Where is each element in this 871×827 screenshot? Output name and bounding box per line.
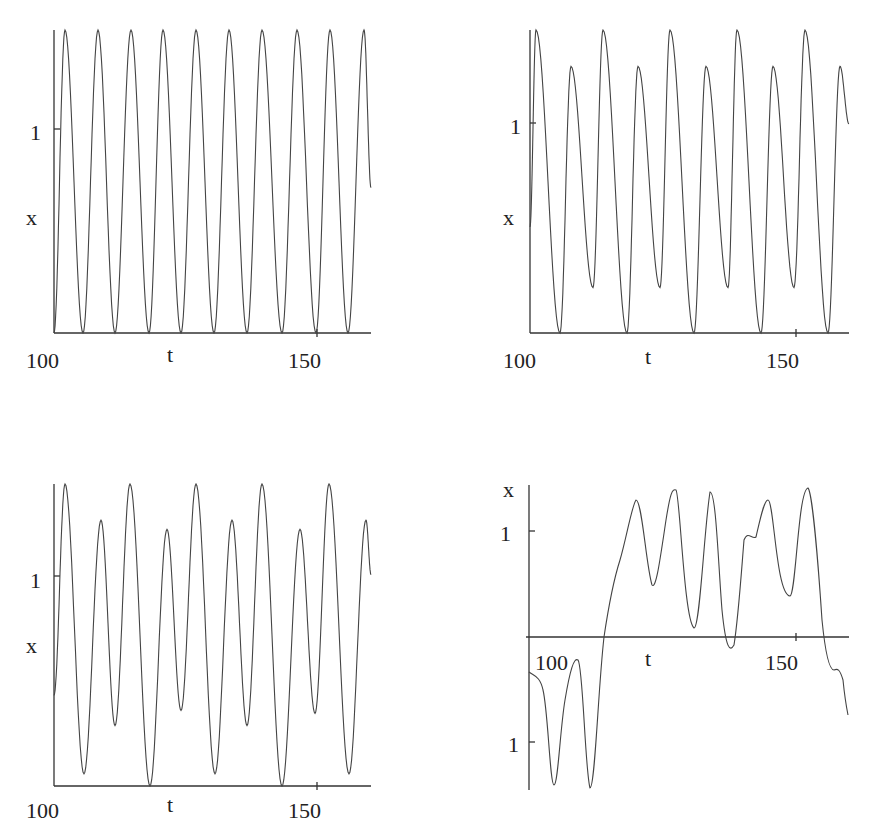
panel4-series: [529, 488, 848, 788]
panel2-xtick-150: 150: [766, 348, 799, 373]
panel1-xlabel: t: [167, 342, 173, 367]
panel2-ylabel: x: [503, 205, 514, 230]
panel1-xtick-100: 100: [26, 348, 59, 373]
panel4-xtick-150: 150: [765, 650, 798, 675]
panel3-xtick-150: 150: [288, 798, 321, 823]
figure: 1 x 100 t 150 1 x 100 t 150 1 x 100 t 15…: [0, 0, 871, 827]
panel3-ytick-1: 1: [30, 568, 41, 593]
panel1-xtick-150: 150: [288, 348, 321, 373]
panel3-series: [54, 484, 371, 786]
panel1-series: [54, 30, 371, 333]
panel4-xtick-100: 100: [535, 650, 568, 675]
panel2-series: [530, 30, 849, 333]
panel4-ylabel: x: [503, 477, 514, 502]
panel2-ytick-1: 1: [510, 114, 521, 139]
panel1-ylabel: x: [26, 205, 37, 230]
panel2-xtick-100: 100: [503, 348, 536, 373]
panel3-xlabel: t: [167, 792, 173, 817]
panel4-ytick-neg1: 1: [508, 732, 519, 757]
panel3-ylabel: x: [26, 633, 37, 658]
panel1-ytick-1: 1: [30, 120, 41, 145]
panel2-xlabel: t: [645, 344, 651, 369]
panel4-xlabel: t: [645, 646, 651, 671]
panel3-xtick-100: 100: [26, 798, 59, 823]
panel4-ytick-1: 1: [500, 521, 511, 546]
